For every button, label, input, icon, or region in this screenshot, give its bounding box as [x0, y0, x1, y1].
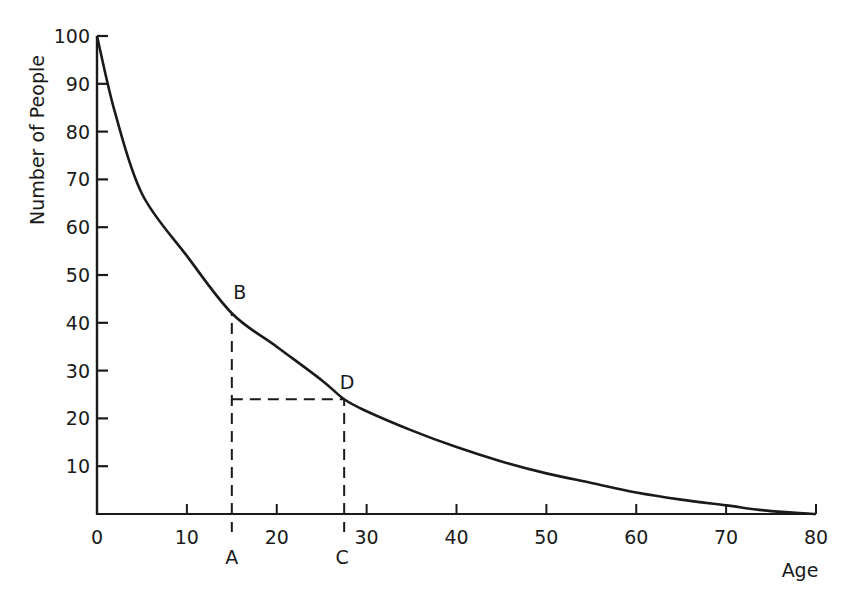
survival-curve — [97, 36, 816, 514]
x-tick-label: 0 — [91, 526, 103, 548]
x-tick-label: 70 — [714, 526, 738, 548]
y-tick-label: 30 — [66, 360, 90, 382]
point-label-d: D — [340, 371, 355, 393]
x-axis-title: Age — [782, 559, 819, 581]
dashed-guides — [232, 313, 344, 532]
x-tick-label: 40 — [444, 526, 468, 548]
y-tick-label: 80 — [66, 121, 90, 143]
x-tick-label: 30 — [355, 526, 379, 548]
y-tick-label: 100 — [54, 25, 90, 47]
y-tick-label: 10 — [66, 455, 90, 477]
axes — [97, 36, 816, 515]
x-tick-label: 20 — [265, 526, 289, 548]
x-tick-label: 60 — [624, 526, 648, 548]
survival-chart: 10203040506070809010001020304050607080 A… — [0, 0, 846, 603]
y-tick-label: 40 — [66, 312, 90, 334]
y-tick-label: 20 — [66, 407, 90, 429]
x-tick-label: 10 — [175, 526, 199, 548]
y-tick-label: 50 — [66, 264, 90, 286]
y-axis-title: Number of People — [26, 55, 48, 225]
x-tick-label: 50 — [534, 526, 558, 548]
point-label-b: B — [233, 281, 246, 303]
point-label-a: A — [225, 546, 238, 568]
x-tick-label: 80 — [804, 526, 828, 548]
y-tick-label: 90 — [66, 73, 90, 95]
point-label-c: C — [336, 546, 349, 568]
y-tick-label: 70 — [66, 168, 90, 190]
y-tick-label: 60 — [66, 216, 90, 238]
axis-ticks: 10203040506070809010001020304050607080 — [54, 25, 828, 548]
